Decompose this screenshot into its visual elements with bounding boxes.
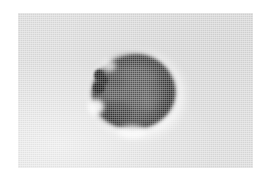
figure-root [0, 0, 272, 183]
image-panel [18, 13, 253, 168]
specimen-dark-granule-edge [100, 76, 108, 85]
